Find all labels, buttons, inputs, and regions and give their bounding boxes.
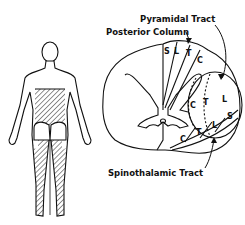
st-seg-c: C <box>180 135 186 144</box>
st-seg-s: S <box>227 112 233 121</box>
pc-seg-c: C <box>197 56 203 65</box>
pt-seg-c: C <box>190 101 196 110</box>
st-seg-t: T <box>196 128 202 137</box>
cord-outline <box>103 41 240 154</box>
pt-seg-l: L <box>222 95 227 104</box>
pyramidal-tract-label: Pyramidal Tract <box>140 14 215 24</box>
spinothalamic-tract-label: Spinothalamic Tract <box>108 168 203 178</box>
diagram-canvas: Pyramidal Tract Posterior Column Spinoth… <box>0 0 245 225</box>
head <box>42 42 58 62</box>
hatched-torso <box>35 89 65 126</box>
posterior-column-label: Posterior Column <box>106 27 189 37</box>
st-seg-l: L <box>212 121 217 130</box>
pt-seg-t: T <box>203 98 209 107</box>
pc-seg-s: S <box>164 47 170 56</box>
pc-seg-t: T <box>186 49 192 58</box>
pc-seg-l: L <box>174 47 179 56</box>
body-figure <box>9 42 91 216</box>
